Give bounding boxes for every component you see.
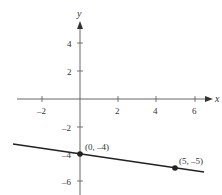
point-label: (5, –5) [179, 156, 203, 166]
point-5-neg5 [172, 165, 178, 171]
y-tick-label: –2 [61, 123, 71, 133]
y-axis-label: y [76, 8, 82, 19]
x-tick-label: 4 [153, 106, 158, 116]
x-axis-label: x [214, 93, 220, 104]
y-tick-label: 4 [67, 39, 72, 49]
point-0-neg4 [77, 151, 83, 157]
y-tick-label: –6 [61, 177, 72, 187]
x-axis-arrow-icon [205, 96, 213, 102]
x-tick-label: 2 [115, 106, 120, 116]
point-label: (0, –4) [85, 142, 109, 152]
y-tick-label: 2 [67, 67, 72, 77]
x-tick-label: 6 [192, 106, 197, 116]
coordinate-plane: x y –2 2 4 6 4 2 –2 –4 –6 (0, –4) (5, –5… [0, 0, 222, 195]
x-tick-label: –2 [36, 106, 46, 116]
y-axis-arrow-icon [77, 21, 83, 29]
